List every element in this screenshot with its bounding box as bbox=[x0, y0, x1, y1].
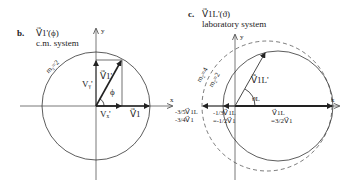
panel-b-subtitle: c.m. system bbox=[36, 39, 79, 48]
b-x-axis-label: x bbox=[170, 97, 174, 104]
b-y-axis-label: y bbox=[101, 28, 105, 35]
c-right-label-2: =3/2V⃗1 bbox=[271, 118, 292, 125]
c-left-inner-label-1: -1/3V⃗1L bbox=[213, 109, 236, 116]
panel-c-graphics bbox=[202, 35, 339, 180]
c-angle-label: ϑL bbox=[252, 96, 260, 103]
c-vector-label: V⃗1L' bbox=[251, 76, 269, 85]
panel-b-letter: b. bbox=[17, 29, 24, 38]
b-vy-label: Vᵧ' bbox=[82, 80, 93, 89]
b-v1-label: V⃗1 bbox=[130, 110, 141, 119]
panel-c-title: V⃗1L'(ϑ) bbox=[202, 10, 230, 19]
b-angle-label: ϕ bbox=[110, 88, 115, 97]
c-right-label-1: V⃗1L bbox=[272, 110, 285, 117]
panel-b-graphics bbox=[20, 29, 172, 180]
panel-c-subtitle: laboratory system bbox=[202, 20, 266, 29]
panel-b-title: V⃗1'(ϕ) bbox=[36, 29, 59, 38]
b-vx-label: Vₓ' bbox=[100, 110, 111, 119]
c-left-outer-label-2: -3/4V⃗1 bbox=[175, 116, 194, 123]
b-v1prime-label: V⃗1' bbox=[100, 72, 112, 81]
c-x-axis-label: x bbox=[331, 97, 335, 104]
c-left-outer-label-1: -3/5V⃗1L bbox=[175, 108, 198, 115]
b-v1prime-arrow bbox=[96, 61, 121, 106]
c-y-axis-label: y bbox=[240, 34, 244, 41]
c-left-inner-label-2: =-1/2V⃗1 bbox=[213, 117, 235, 124]
panel-c-letter: c. bbox=[188, 10, 194, 19]
